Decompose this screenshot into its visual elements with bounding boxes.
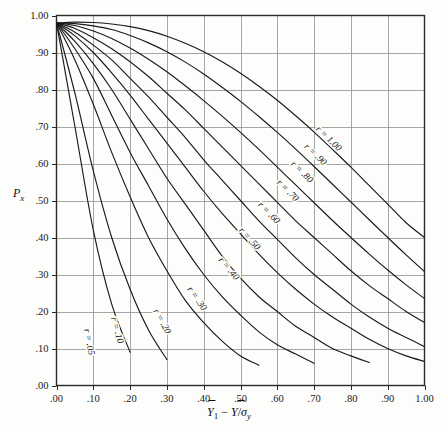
- y-tick-label: .10: [35, 343, 48, 354]
- x-tick-label: .90: [381, 393, 394, 404]
- y-tick-label: .50: [35, 195, 48, 206]
- x-tick-label: .70: [308, 393, 321, 404]
- svg-text:Y1 − Y/σy: Y1 − Y/σy: [207, 405, 251, 421]
- x-tick-label: .30: [160, 393, 173, 404]
- y-tick-label: .80: [35, 84, 48, 95]
- statistical-nomograph-chart: .00.10.20.30.40.50.60.70.80.901.00 .00.1…: [0, 0, 447, 426]
- chart-figure: .00.10.20.30.40.50.60.70.80.901.00 .00.1…: [0, 0, 447, 426]
- y-tick-label: .20: [35, 306, 48, 317]
- x-tick-label: .10: [87, 393, 100, 404]
- x-tick-label: .80: [344, 393, 357, 404]
- x-tick-label: .40: [197, 393, 210, 404]
- y-tick-label: 1.00: [30, 10, 48, 21]
- y-tick-label: .90: [35, 47, 48, 58]
- y-tick-label: .30: [35, 269, 48, 280]
- x-tick-label: .00: [50, 393, 63, 404]
- x-tick-label: .20: [124, 393, 137, 404]
- y-tick-label: .70: [35, 121, 48, 132]
- y-tick-label: .40: [35, 232, 48, 243]
- x-tick-label: 1.00: [415, 393, 433, 404]
- x-tick-label: .60: [271, 393, 284, 404]
- y-tick-label: .60: [35, 158, 48, 169]
- y-tick-label: .00: [35, 380, 48, 391]
- x-tick-label: .50: [234, 393, 247, 404]
